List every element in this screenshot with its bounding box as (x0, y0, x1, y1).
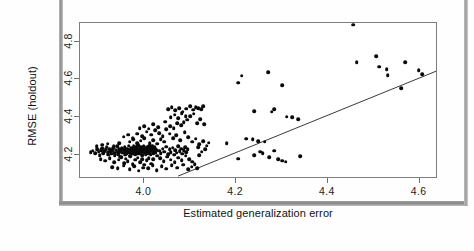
data-point (285, 115, 289, 119)
x-tick-label: 4.2 (227, 185, 243, 197)
data-point (147, 156, 151, 160)
data-point (132, 165, 136, 169)
x-axis-title: Estimated generalization error (79, 207, 437, 219)
data-point (116, 166, 120, 170)
data-point (240, 74, 244, 78)
data-point (385, 67, 389, 71)
x-tick-label: 4.6 (411, 185, 427, 197)
data-point (108, 156, 112, 160)
x-tick-mark (143, 178, 144, 183)
data-point (155, 142, 159, 146)
data-point (142, 166, 146, 170)
data-point (122, 135, 126, 139)
data-point (128, 167, 132, 171)
data-point (225, 141, 229, 145)
data-point (374, 55, 378, 59)
data-point (138, 161, 142, 165)
data-point (131, 136, 135, 140)
data-point (164, 167, 168, 171)
data-point (351, 23, 355, 27)
data-point (175, 134, 179, 138)
data-point (237, 81, 241, 85)
plot-area (79, 22, 437, 178)
y-tick-mark (74, 116, 79, 117)
data-point (182, 120, 186, 124)
data-point (237, 157, 241, 161)
data-point (160, 164, 164, 168)
data-point (261, 152, 265, 156)
y-tick-label: 4.6 (62, 71, 74, 87)
data-point (256, 139, 260, 143)
y-tick-label: 4.4 (62, 108, 74, 124)
data-point (155, 168, 159, 172)
data-point (355, 60, 359, 64)
y-axis-title: RMSE (holdout) (26, 36, 38, 176)
scanned-page-background: 4.04.24.44.6 4.24.44.64.8 Estimated gene… (0, 0, 474, 251)
data-point (204, 147, 208, 151)
data-point (299, 154, 303, 158)
data-point (176, 117, 180, 121)
data-point (180, 159, 184, 163)
x-tick-label: 4.0 (136, 185, 152, 197)
data-point (403, 61, 407, 65)
data-point (417, 69, 421, 73)
data-point (162, 159, 166, 163)
data-point (122, 164, 126, 168)
data-point (142, 124, 146, 128)
data-point (172, 126, 176, 130)
data-point (198, 117, 202, 121)
data-point (137, 169, 141, 173)
data-point (112, 145, 116, 149)
y-tick-label: 4.2 (62, 146, 74, 162)
data-point (146, 167, 150, 171)
data-point (161, 134, 165, 138)
y-tick-mark (74, 41, 79, 42)
data-point (152, 123, 156, 127)
data-point (177, 106, 181, 110)
data-point (183, 131, 187, 135)
data-point (113, 160, 117, 164)
data-point (140, 134, 144, 138)
data-point (186, 118, 190, 122)
data-point (118, 141, 122, 145)
data-point (193, 162, 197, 166)
data-point (253, 153, 257, 157)
y-tick-mark (74, 154, 79, 155)
data-point (200, 150, 204, 154)
data-point (135, 142, 139, 146)
data-point (99, 157, 103, 161)
data-point (195, 121, 199, 125)
data-point (176, 166, 180, 170)
data-point (156, 126, 160, 130)
data-point (399, 87, 403, 91)
data-point (95, 144, 99, 148)
data-point (100, 143, 104, 147)
data-point (168, 132, 172, 136)
data-point (120, 155, 124, 159)
data-point (253, 109, 257, 113)
data-point (126, 133, 130, 137)
data-point (386, 73, 390, 77)
data-point (207, 141, 211, 145)
data-point (147, 127, 151, 131)
data-point (377, 65, 381, 69)
data-point (190, 140, 194, 144)
data-point (106, 142, 110, 146)
data-point (280, 83, 284, 87)
data-point (151, 164, 155, 168)
data-point (284, 160, 288, 164)
y-tick-mark (74, 78, 79, 79)
data-point (198, 153, 202, 157)
data-point (170, 163, 174, 167)
data-point (202, 122, 206, 126)
data-point (290, 116, 294, 120)
data-point (187, 135, 191, 139)
data-point (192, 112, 196, 116)
x-tick-label: 4.4 (319, 185, 335, 197)
data-point (138, 126, 142, 130)
data-point (149, 133, 153, 137)
data-point (201, 139, 205, 143)
data-point (181, 110, 185, 114)
data-point (141, 157, 145, 161)
data-point (103, 159, 107, 163)
